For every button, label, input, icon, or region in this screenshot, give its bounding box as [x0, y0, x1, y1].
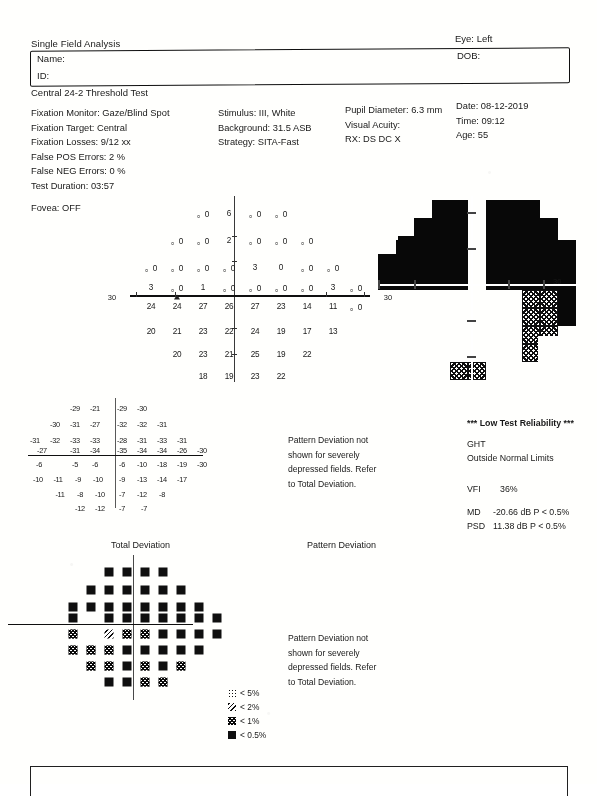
psd-value: 11.38 dB P < 0.5% — [493, 521, 566, 531]
grayscale-cell — [396, 254, 414, 272]
total-deviation-value: -29 — [117, 404, 127, 413]
probability-symbol — [141, 646, 150, 655]
grayscale-cell — [522, 272, 540, 290]
probability-symbol — [177, 662, 186, 671]
threshold-value: 3 — [331, 283, 335, 292]
total-deviation-value: -10 — [137, 460, 147, 469]
false-pos-errors: False POS Errors: 2 % — [31, 150, 170, 165]
threshold-value: 。0 — [171, 261, 183, 273]
legend-symbol-p2 — [228, 703, 236, 711]
total-deviation-value: -7 — [141, 504, 147, 513]
total-deviation-value: -34 — [157, 446, 167, 455]
grayscale-cell — [432, 344, 450, 362]
probability-symbol — [105, 646, 114, 655]
test-date: Date: 08-12-2019 — [456, 99, 528, 114]
grayscale-cell — [486, 362, 504, 380]
grayscale-cell — [432, 290, 450, 308]
threshold-value: 18 — [199, 372, 208, 381]
total-deviation-value: -11 — [55, 490, 64, 499]
probability-symbol — [141, 614, 150, 623]
total-deviation-value: -34 — [90, 446, 100, 455]
grayscale-cell — [504, 254, 522, 272]
probability-symbol — [123, 646, 132, 655]
total-deviation-value: -27 — [90, 420, 100, 429]
threshold-value: 23 — [251, 372, 260, 381]
ght-value: Outside Normal Limits — [467, 453, 554, 463]
grayscale-cell — [450, 326, 468, 344]
grayscale-cell — [414, 326, 432, 344]
grayscale-cell — [540, 308, 558, 326]
threshold-value: 。0 — [249, 234, 261, 246]
grayscale-cell — [378, 290, 396, 308]
threshold-value: 24 — [251, 327, 260, 336]
total-deviation-value: -7 — [119, 490, 125, 499]
grayscale-mask — [558, 196, 578, 240]
grayscale-cell — [450, 218, 468, 236]
total-deviation-value: -35 — [117, 446, 127, 455]
probability-symbol — [141, 568, 150, 577]
note-line: Pattern Deviation not — [288, 433, 376, 448]
probability-symbol — [159, 586, 168, 595]
grayscale-cell — [414, 236, 432, 254]
probability-symbol — [159, 568, 168, 577]
probability-symbol — [195, 603, 204, 612]
probability-symbol — [87, 586, 96, 595]
note-line: depressed fields. Refer — [288, 660, 376, 675]
total-deviation-value: -19 — [177, 460, 187, 469]
legend-symbol-p1 — [228, 717, 236, 725]
total-deviation-value: -31 — [70, 420, 80, 429]
threshold-sensitivity-plot: 30 。06。0。0。0。02。0。0。0。0。0。0。030。0。03。01。… — [130, 196, 370, 382]
grayscale-cell — [522, 308, 540, 326]
total-deviation-value: -32 — [137, 420, 147, 429]
legend-row: < 2% — [228, 700, 266, 714]
legend-row: < 0.5% — [228, 728, 266, 742]
fixation-monitor: Fixation Monitor: Gaze/Blind Spot — [31, 106, 170, 121]
grayscale-cell — [396, 290, 414, 308]
total-deviation-value: -6 — [119, 460, 125, 469]
probability-symbol — [105, 630, 114, 639]
grayscale-cell — [504, 362, 522, 380]
rx-correction: RX: DS DC X — [345, 132, 442, 147]
probability-symbol — [195, 630, 204, 639]
threshold-value: 。0 — [145, 261, 157, 273]
total-deviation-value: -33 — [70, 436, 80, 445]
total-deviation-value: -5 — [72, 460, 78, 469]
total-deviation-value: -31 — [157, 420, 167, 429]
legend-label: < 1% — [240, 716, 259, 726]
grayscale-horizontal-divider — [378, 284, 578, 286]
threshold-value: 3 — [253, 263, 257, 272]
threshold-value: 11 — [329, 302, 337, 311]
grayscale-cell — [486, 272, 504, 290]
pattern-deviation-title: Pattern Deviation — [307, 540, 376, 550]
grayscale-cell — [450, 254, 468, 272]
probability-symbol — [69, 630, 78, 639]
grayscale-cell — [504, 218, 522, 236]
probability-symbol — [87, 603, 96, 612]
probability-symbol — [123, 678, 132, 687]
threshold-value: 1 — [201, 283, 205, 292]
threshold-value: 22 — [277, 372, 286, 381]
probability-legend: < 5%< 2%< 1%< 0.5% — [228, 686, 266, 742]
total-deviation-value: -9 — [75, 475, 81, 484]
grayscale-cell — [540, 218, 558, 236]
probability-symbol — [105, 614, 114, 623]
total-deviation-value: -33 — [90, 436, 100, 445]
total-deviation-value: -9 — [119, 475, 125, 484]
legend-label: < 0.5% — [240, 730, 266, 740]
threshold-value: 。0 — [171, 234, 183, 246]
total-deviation-value: -10 — [95, 490, 105, 499]
grayscale-cell — [504, 236, 522, 254]
threshold-value: 13 — [329, 327, 338, 336]
probability-symbol — [159, 603, 168, 612]
threshold-value: 27 — [251, 302, 260, 311]
grayscale-cell — [414, 290, 432, 308]
total-deviation-value: -12 — [137, 490, 147, 499]
probability-symbol — [177, 603, 186, 612]
probability-symbol — [123, 614, 132, 623]
grayscale-cell — [432, 272, 450, 290]
test-parameters-column-2: Stimulus: III, White Background: 31.5 AS… — [218, 106, 312, 150]
probability-symbol — [87, 646, 96, 655]
total-deviation-value: -21 — [90, 404, 100, 413]
grayscale-cell — [504, 290, 522, 308]
tdsym-horizontal-axis — [8, 624, 193, 625]
